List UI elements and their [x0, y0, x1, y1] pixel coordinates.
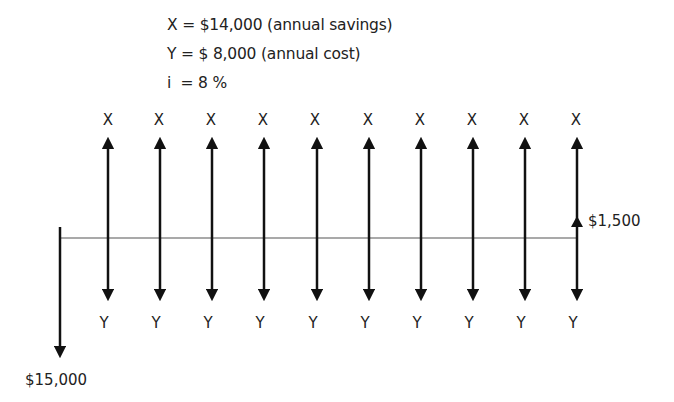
inflow-label: X — [415, 111, 425, 129]
inflow-label: X — [363, 111, 373, 129]
outflow-label: Y — [308, 314, 317, 332]
inflow-label: X — [258, 111, 268, 129]
outflow-label: Y — [151, 314, 160, 332]
outflow-label: Y — [464, 314, 473, 332]
cash-flow-diagram — [0, 0, 674, 402]
inflow-label: X — [571, 111, 581, 129]
inflow-label: X — [206, 111, 216, 129]
initial-cost-label: $15,000 — [25, 371, 87, 389]
inflow-label: X — [467, 111, 477, 129]
outflow-label: Y — [516, 314, 525, 332]
salvage-value-label: $1,500 — [588, 212, 641, 230]
inflow-label: X — [154, 111, 164, 129]
inflow-label: X — [103, 111, 113, 129]
outflow-label: Y — [568, 314, 577, 332]
annual-cash-flow-arrows — [108, 143, 577, 295]
outflow-label: Y — [99, 314, 108, 332]
outflow-label: Y — [412, 314, 421, 332]
inflow-label: X — [310, 111, 320, 129]
inflow-label: X — [519, 111, 529, 129]
salvage-arrowhead — [571, 216, 583, 227]
outflow-label: Y — [255, 314, 264, 332]
outflow-label: Y — [360, 314, 369, 332]
outflow-label: Y — [203, 314, 212, 332]
